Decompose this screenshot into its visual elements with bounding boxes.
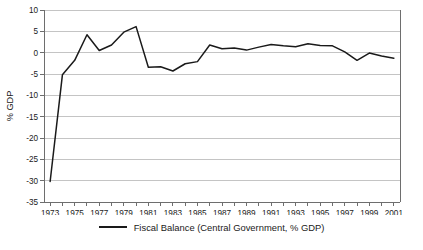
y-tick-label: 0	[33, 49, 38, 58]
legend-line-swatch	[99, 226, 127, 228]
x-tick-label: 1989	[237, 209, 256, 215]
y-tick-label: -5	[31, 70, 39, 79]
x-tick-label: 2001	[385, 209, 404, 215]
y-tick-label: -20	[26, 134, 38, 143]
x-tick-label: 1993	[287, 209, 306, 215]
x-tick-label: 1977	[90, 209, 109, 215]
legend-label-fiscal-balance: Fiscal Balance (Central Government, % GD…	[134, 222, 325, 233]
x-tick-label: 1985	[188, 209, 207, 215]
data-line-1	[50, 27, 394, 182]
x-tick-label: 1995	[311, 209, 330, 215]
y-axis-title: % GDP	[5, 91, 15, 122]
y-tick-label: 5	[33, 27, 38, 36]
y-tick-label: -35	[26, 198, 38, 207]
chart-legend: Fiscal Balance (Central Government, % GD…	[0, 217, 423, 237]
y-tick-label: -25	[26, 155, 38, 164]
x-tick-label: 1979	[115, 209, 134, 215]
x-tick-label: 1975	[66, 209, 85, 215]
x-tick-label: 1987	[213, 209, 232, 215]
x-tick-label: 1973	[41, 209, 60, 215]
x-tick-label: 1981	[139, 209, 158, 215]
x-tick-label: 1983	[164, 209, 183, 215]
figure: 1050-5-10-15-20-25-30-351973197519771979…	[0, 0, 423, 250]
x-tick-label: 1991	[262, 209, 281, 215]
y-tick-label: -30	[26, 177, 38, 186]
chart-plot-area: 1050-5-10-15-20-25-30-351973197519771979…	[0, 0, 423, 215]
y-tick-label: -15	[26, 113, 38, 122]
y-tick-label: 10	[29, 6, 39, 15]
x-tick-label: 1997	[336, 209, 355, 215]
x-tick-label: 1999	[360, 209, 379, 215]
line-chart-svg: 1050-5-10-15-20-25-30-351973197519771979…	[0, 0, 423, 215]
y-tick-label: -10	[26, 91, 38, 100]
